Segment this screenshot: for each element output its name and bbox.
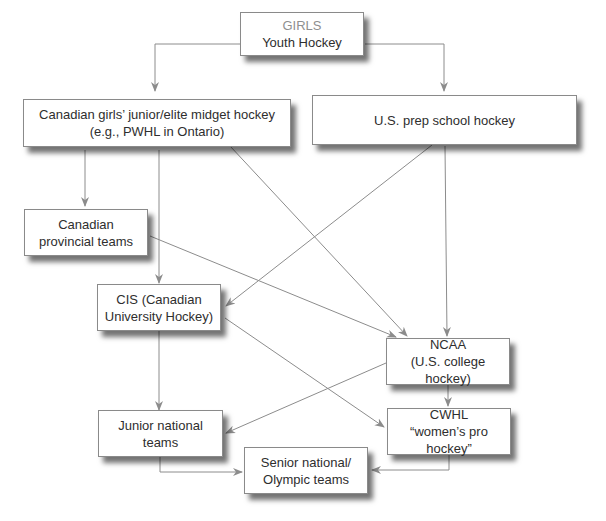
node-cwhl: CWHL “women’s pro hockey” [387,408,511,455]
node-label-line1: GIRLS [282,17,321,34]
node-us-prep-school: U.S. prep school hockey [312,95,577,145]
edge-youth-to-canadian-junior [155,44,240,91]
node-canadian-junior-elite-midget: Canadian girls’ junior/elite midget hock… [23,99,291,147]
node-label-line1: Canadian [58,216,114,233]
node-canadian-provincial-teams: Canadian provincial teams [24,209,148,256]
node-senior-national-olympic: Senior national/ Olympic teams [244,447,368,494]
node-label-line1: Junior national teams [99,417,222,451]
node-label-line1: Canadian girls’ junior/elite midget hock… [39,106,275,123]
edge-cwhl-to-senior [372,455,449,470]
node-label-line1: NCAA [430,336,466,353]
node-cis-canadian-university: CIS (Canadian University Hockey) [97,284,221,331]
node-ncaa: NCAA (U.S. college hockey) [386,338,510,385]
edge-us-prep-to-cis [226,145,432,306]
node-label-line2: “women’s pro hockey” [388,423,510,457]
node-junior-national-teams: Junior national teams [98,410,223,457]
node-label-line1: U.S. prep school hockey [374,112,515,129]
edge-cis-to-cwhl [225,318,384,427]
node-label-line1: CWHL [430,406,468,423]
diagram-edges [0,0,606,521]
edge-us-prep-to-ncaa [445,146,447,336]
edge-junior-national-to-senior [160,456,242,472]
node-label-line2: Olympic teams [263,471,349,488]
node-label-line1: CIS (Canadian [116,291,201,308]
node-label-line1: Senior national/ [261,454,351,471]
node-label-line2: (e.g., PWHL in Ontario) [90,123,225,140]
node-label-line2: Youth Hockey [262,34,342,51]
edge-canadian-junior-to-ncaa [230,146,407,336]
node-label-line2: University Hockey) [105,308,213,325]
node-girls-youth-hockey: GIRLS Youth Hockey [240,12,364,56]
edge-youth-to-us-prep [365,44,444,91]
node-label-line2: provincial teams [39,233,133,250]
node-label-line2: (U.S. college hockey) [387,353,509,387]
